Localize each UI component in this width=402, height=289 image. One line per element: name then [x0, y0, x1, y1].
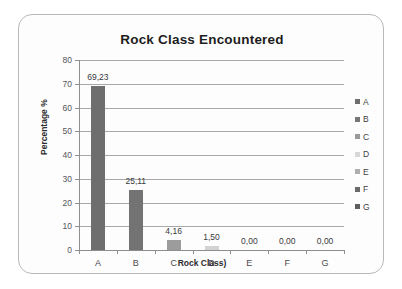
bar-label-e: 0,00: [241, 236, 258, 246]
bar-label-b: 25,11: [125, 176, 146, 186]
legend-swatch-icon: [355, 187, 360, 192]
x-axis-tick: [79, 250, 80, 254]
bar-label-c: 4,16: [165, 226, 182, 236]
legend-item-b[interactable]: B: [355, 111, 383, 129]
legend-swatch-icon: [355, 169, 360, 174]
y-axis-tick: [75, 226, 79, 227]
bar-a[interactable]: [91, 86, 105, 250]
x-axis-tick: [268, 250, 269, 254]
gridline-50: [79, 131, 344, 132]
legend-label: C: [363, 133, 369, 142]
bar-c[interactable]: [167, 240, 181, 250]
legend: ABCDEFG: [355, 93, 383, 216]
legend-swatch-icon: [355, 152, 360, 157]
x-axis-tick: [306, 250, 307, 254]
x-axis-tick: [155, 250, 156, 254]
y-axis-tick-label: 60: [63, 103, 72, 113]
x-axis-tick: [193, 250, 194, 254]
y-axis-title: Percentage %: [39, 99, 49, 155]
legend-item-f[interactable]: F: [355, 181, 383, 199]
gridline-10: [79, 226, 344, 227]
x-axis-tick: [230, 250, 231, 254]
legend-item-d[interactable]: D: [355, 146, 383, 164]
legend-item-g[interactable]: G: [355, 198, 383, 216]
gridline-70: [79, 84, 344, 85]
legend-item-a[interactable]: A: [355, 93, 383, 111]
legend-swatch-icon: [355, 204, 360, 209]
y-axis-tick: [75, 203, 79, 204]
y-axis-tick-label: 50: [63, 126, 72, 136]
legend-label: B: [363, 115, 369, 124]
gridline-20: [79, 203, 344, 204]
y-axis-tick-label: 40: [63, 150, 72, 160]
bar-d[interactable]: [205, 246, 219, 250]
y-axis-tick: [75, 131, 79, 132]
x-axis-title: Rock Class): [19, 258, 385, 268]
y-axis-tick-label: 20: [63, 198, 72, 208]
bar-b[interactable]: [129, 190, 143, 250]
y-axis-tick-label: 0: [67, 245, 72, 255]
legend-label: E: [363, 168, 369, 177]
gridline-0: [79, 250, 344, 251]
legend-label: D: [363, 150, 369, 159]
legend-item-c[interactable]: C: [355, 128, 383, 146]
legend-label: G: [363, 203, 370, 212]
y-axis-tick: [75, 155, 79, 156]
y-axis-tick-label: 70: [63, 79, 72, 89]
chart-title: Rock Class Encountered: [19, 32, 385, 47]
y-axis-tick: [75, 84, 79, 85]
plot-area: 01020304050607080 69,2325,114,161,500,00…: [79, 60, 344, 250]
y-axis-tick: [75, 60, 79, 61]
gridline-40: [79, 155, 344, 156]
bar-label-d: 1,50: [203, 232, 220, 242]
gridline-60: [79, 108, 344, 109]
y-axis-tick: [75, 179, 79, 180]
x-axis-tick: [117, 250, 118, 254]
legend-item-e[interactable]: E: [355, 163, 383, 181]
bar-label-g: 0,00: [317, 236, 334, 246]
y-axis-tick-label: 10: [63, 221, 72, 231]
bar-label-f: 0,00: [279, 236, 296, 246]
legend-swatch-icon: [355, 99, 360, 104]
y-axis-tick-label: 30: [63, 174, 72, 184]
legend-label: F: [363, 185, 368, 194]
chart-frame: Rock Class Encountered Percentage % 0102…: [18, 14, 384, 274]
y-axis-line: [79, 60, 80, 250]
gridline-30: [79, 179, 344, 180]
legend-swatch-icon: [355, 134, 360, 139]
legend-label: A: [363, 98, 369, 107]
y-axis-tick: [75, 108, 79, 109]
bar-label-a: 69,23: [87, 72, 108, 82]
x-axis-tick: [344, 250, 345, 254]
gridline-80: [79, 60, 344, 61]
y-axis-tick-label: 80: [63, 55, 72, 65]
legend-swatch-icon: [355, 117, 360, 122]
